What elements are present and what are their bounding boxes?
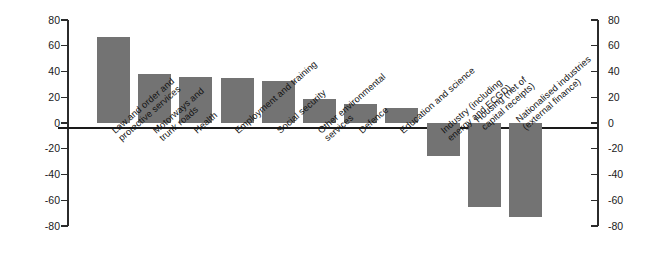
- left-tick-label: -60: [20, 195, 60, 206]
- right-tick-label: 40: [608, 66, 648, 77]
- left-tick-label: 80: [20, 15, 60, 26]
- left-tick-neg20: [61, 148, 68, 149]
- right-tick-60: [591, 45, 598, 46]
- right-tick-neg40: [591, 174, 598, 175]
- right-tick-label: -40: [608, 169, 648, 180]
- right-tick-neg20: [591, 148, 598, 149]
- left-tick-label: 40: [20, 66, 60, 77]
- right-tick-label: -20: [608, 143, 648, 154]
- left-tick-40: [61, 71, 68, 72]
- left-tick-neg40: [61, 174, 68, 175]
- left-tick-0: [61, 122, 68, 123]
- right-tick-0: [591, 122, 598, 123]
- left-tick-label: 20: [20, 92, 60, 103]
- left-tick-label: 60: [20, 40, 60, 51]
- left-tick-neg80: [61, 225, 68, 226]
- left-tick-20: [61, 97, 68, 98]
- bar-chart: 806040200-20-40-60-80 806040200-20-40-60…: [0, 0, 654, 255]
- left-tick-label: -80: [20, 221, 60, 232]
- right-tick-label: 0: [608, 118, 648, 129]
- right-tick-20: [591, 97, 598, 98]
- right-tick-label: 20: [608, 92, 648, 103]
- right-tick-label: 60: [608, 40, 648, 51]
- right-tick-label: -80: [608, 221, 648, 232]
- left-tick-label: 0: [20, 118, 60, 129]
- bar: [509, 123, 542, 217]
- left-tick-60: [61, 45, 68, 46]
- left-tick-neg60: [61, 200, 68, 201]
- right-tick-label: 80: [608, 15, 648, 26]
- left-tick-label: -20: [20, 143, 60, 154]
- right-tick-80: [591, 19, 598, 20]
- left-tick-80: [61, 19, 68, 20]
- bar: [97, 37, 130, 123]
- bar: [468, 123, 501, 207]
- right-tick-neg60: [591, 200, 598, 201]
- right-tick-neg80: [591, 225, 598, 226]
- left-tick-label: -40: [20, 169, 60, 180]
- right-tick-label: -60: [608, 195, 648, 206]
